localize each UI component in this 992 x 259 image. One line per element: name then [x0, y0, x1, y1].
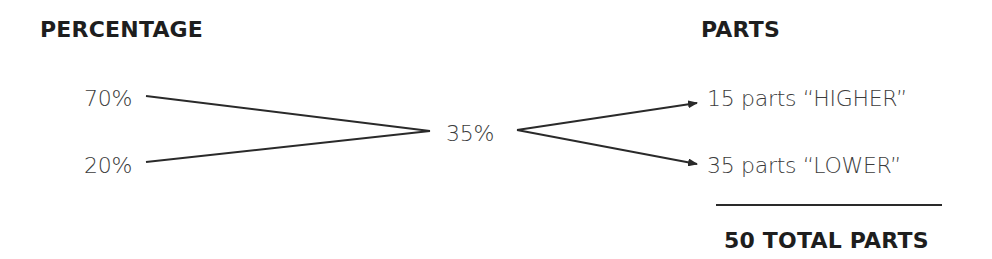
line-70-to-35 [146, 96, 430, 131]
arrow-to-higher [517, 103, 697, 130]
line-20-to-35 [146, 131, 430, 162]
total-parts: 50 TOTAL PARTS [724, 228, 929, 253]
arrow-to-lower [517, 130, 697, 164]
connector-lines [0, 0, 992, 259]
